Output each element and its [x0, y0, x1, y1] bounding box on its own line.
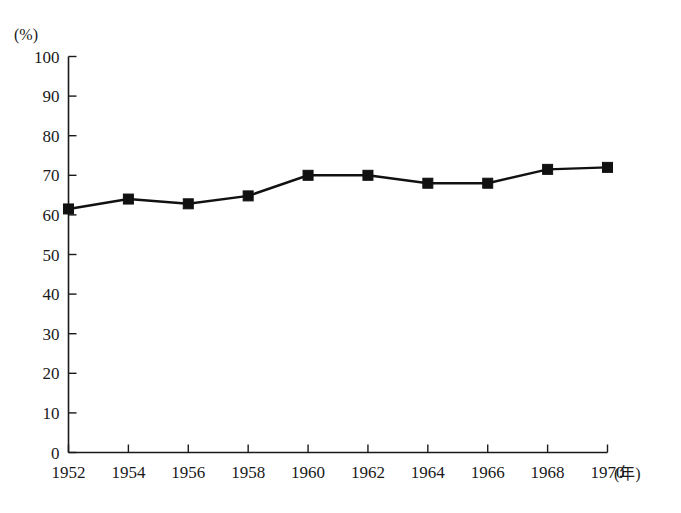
- x-axis-tick-labels: 1952195419561958196019621964196619681970: [52, 463, 625, 482]
- data-point-marker: [123, 194, 133, 204]
- x-axis-ticks: [69, 445, 608, 453]
- y-axis-ticks: [69, 57, 77, 453]
- x-tick-label: 1960: [291, 463, 325, 482]
- y-tick-label: 100: [34, 48, 60, 67]
- x-tick-label: 1958: [231, 463, 265, 482]
- data-point-marker: [303, 170, 313, 180]
- x-tick-label: 1962: [351, 463, 385, 482]
- y-tick-label: 30: [43, 325, 60, 344]
- x-tick-label: 1956: [171, 463, 205, 482]
- y-tick-label: 20: [43, 364, 60, 383]
- data-point-marker: [423, 178, 433, 188]
- x-tick-label: 1954: [111, 463, 146, 482]
- y-tick-label: 0: [51, 444, 60, 463]
- x-axis-unit-label: (年): [614, 465, 641, 483]
- data-point-marker: [363, 170, 373, 180]
- data-point-marker: [64, 204, 74, 214]
- y-tick-label: 10: [43, 404, 60, 423]
- x-tick-label: 1952: [52, 463, 86, 482]
- y-tick-label: 90: [43, 87, 60, 106]
- data-point-markers: [64, 162, 613, 214]
- y-tick-label: 60: [43, 206, 60, 225]
- y-tick-label: 80: [43, 127, 60, 146]
- y-tick-label: 70: [43, 166, 60, 185]
- y-axis-tick-labels: 0102030405060708090100: [34, 48, 60, 463]
- chart-container: 0102030405060708090100 19521954195619581…: [0, 0, 681, 513]
- line-chart: 0102030405060708090100 19521954195619581…: [0, 0, 681, 513]
- data-point-marker: [483, 178, 493, 188]
- x-tick-label: 1966: [471, 463, 505, 482]
- x-tick-label: 1964: [411, 463, 446, 482]
- x-tick-label: 1968: [531, 463, 565, 482]
- data-point-marker: [243, 191, 253, 201]
- y-tick-label: 40: [43, 285, 60, 304]
- data-line-series: [69, 167, 608, 209]
- y-axis-unit-label: (%): [14, 26, 38, 44]
- data-point-marker: [183, 199, 193, 209]
- data-point-marker: [543, 164, 553, 174]
- data-point-marker: [603, 162, 613, 172]
- y-tick-label: 50: [43, 246, 60, 265]
